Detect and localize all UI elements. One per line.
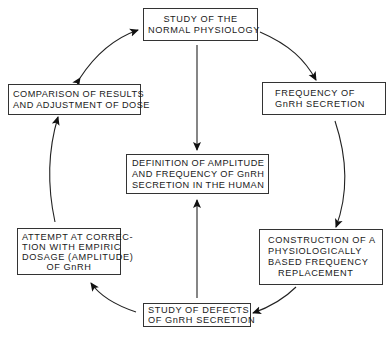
node-definition: DEFINITION OF AMPLITUDE AND FREQUENCY OF… (126, 154, 269, 194)
node-line: BASED FREQUENCY (268, 257, 378, 268)
arrow-normal-to-frequency (260, 32, 316, 80)
node-line: AND ADJUSTMENT OF DOSE (13, 100, 136, 111)
node-line: FREQUENCY OF (275, 88, 381, 99)
node-comparison: COMPARISON OF RESULTS AND ADJUSTMENT OF … (8, 84, 141, 115)
arrow-comparison-normal-bidirectional (80, 30, 138, 78)
node-frequency-secretion: FREQUENCY OF GnRH SECRETION (262, 82, 386, 115)
node-line: DOSAGE (AMPLITUDE) (22, 252, 116, 262)
node-line: AND FREQUENCY OF GnRH (132, 169, 264, 180)
node-normal-physiology: STUDY OF THE NORMAL PHYSIOLOGY (143, 8, 258, 41)
node-line: DEFINITION OF AMPLITUDE (132, 158, 264, 169)
node-line: OF GnRH (22, 262, 116, 272)
node-line: COMPARISON OF RESULTS (13, 89, 136, 100)
node-line: TION WITH EMPIRIC (22, 242, 116, 252)
node-line: REPLACEMENT (268, 268, 378, 279)
node-line: ATTEMPT AT CORREC- (22, 232, 116, 242)
node-line: PHYSIOLOGICALLY (268, 246, 378, 257)
node-line: GnRH SECRETION (275, 99, 381, 110)
arrow-frequency-to-construction (335, 121, 345, 227)
arrow-defects-to-attempt (91, 283, 136, 312)
node-construction: CONSTRUCTION OF A PHYSIOLOGICALLY BASED … (259, 229, 383, 285)
arrow-construction-to-defects (253, 287, 296, 313)
node-line: SECRETION IN THE HUMAN (132, 180, 264, 191)
node-line: STUDY OF DEFECTS (148, 305, 246, 315)
arrow-attempt-to-comparison (50, 117, 58, 222)
node-study-defects: STUDY OF DEFECTS OF GnRH SECRETION (143, 303, 251, 327)
node-line: OF GnRH SECRETION (148, 315, 246, 325)
node-line: NORMAL PHYSIOLOGY (148, 25, 253, 36)
node-attempt-correction: ATTEMPT AT CORREC- TION WITH EMPIRIC DOS… (17, 228, 121, 275)
node-line: CONSTRUCTION OF A (268, 235, 378, 246)
node-line: STUDY OF THE (148, 14, 253, 25)
